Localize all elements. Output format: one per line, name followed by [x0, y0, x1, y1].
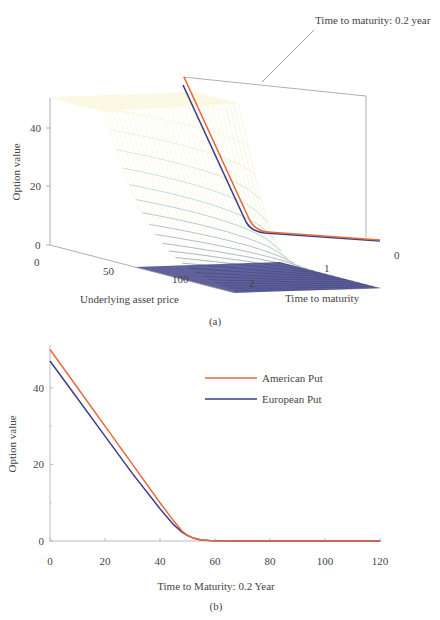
legend-label-european: European Put: [262, 393, 322, 405]
legend-label-american: American Put: [262, 372, 323, 384]
x-tick-b: 60: [210, 555, 222, 567]
y-tick-2: 2: [249, 277, 255, 289]
x-tick-b: 0: [47, 555, 53, 567]
x-tick-b: 40: [155, 555, 167, 567]
z-axis-ticks: 40 20 0: [30, 122, 50, 251]
surface-mesh: [50, 93, 380, 294]
caption-b: (b): [210, 600, 223, 613]
surface-chart-a: Time to maturity: 0.2 year 40 20 0 Optio…: [10, 14, 431, 328]
x-tick-b: 120: [372, 555, 389, 567]
z-tick-0: 0: [35, 239, 41, 251]
european-put-line: [50, 361, 380, 541]
x-axis-label-a: Underlying asset price: [80, 293, 179, 305]
figure: Time to maturity: 0.2 year 40 20 0 Optio…: [0, 0, 440, 620]
annotation-leader: [262, 30, 314, 82]
z-tick-40: 40: [30, 122, 42, 134]
y-axis-label-a: Time to maturity: [285, 292, 360, 304]
legend: American Put European Put: [205, 372, 323, 405]
x-tick-0: 0: [34, 256, 40, 268]
x-tick-b: 20: [100, 555, 112, 567]
x-axis-label-b: Time to Maturity: 0.2 Year: [157, 580, 275, 592]
z-axis-label: Option value: [10, 143, 22, 200]
y-tick-b: 20: [33, 458, 45, 470]
x-tick-100: 100: [172, 273, 189, 285]
z-tick-20: 20: [30, 180, 42, 192]
x-tick-b: 100: [317, 555, 334, 567]
y-tick-b: 40: [33, 382, 45, 394]
y-tick-b: 0: [39, 535, 45, 547]
caption-a: (a): [209, 315, 222, 328]
line-chart-b: 02040608010012002040 American Put Europe…: [6, 345, 389, 613]
y-tick-0: 0: [394, 249, 400, 261]
annotation-text: Time to maturity: 0.2 year: [315, 14, 431, 26]
x-tick-b: 80: [265, 555, 277, 567]
axes-b: [50, 345, 382, 541]
x-tick-50: 50: [103, 265, 115, 277]
y-tick-1: 1: [324, 262, 330, 274]
y-axis-label-b: Option value: [6, 415, 18, 472]
